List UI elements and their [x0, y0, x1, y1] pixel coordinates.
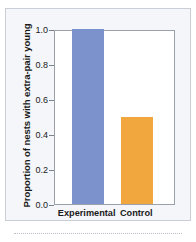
y-axis-tick: 0.8 — [6, 59, 54, 71]
y-axis-tick-label: 0.8 — [35, 59, 48, 71]
y-axis-tick: 1.0 — [6, 24, 54, 36]
figure-panel: Proportion of nests with extra-pair youn… — [5, 8, 191, 221]
y-axis-tick-label: 0.2 — [35, 164, 48, 176]
y-axis-tick: 0.4 — [6, 129, 54, 141]
y-axis-ticks: 0.00.20.40.60.81.0 — [6, 30, 54, 205]
bar-control — [121, 117, 153, 205]
y-axis-tick-label: 0.4 — [35, 129, 48, 141]
plot-area — [54, 30, 175, 205]
bar-experimental — [72, 29, 104, 204]
y-axis-tick-label: 0.6 — [35, 94, 48, 106]
y-axis-tick-label: 1.0 — [35, 24, 48, 36]
x-axis-label-control: Control — [91, 208, 181, 218]
y-axis-tick: 0.2 — [6, 164, 54, 176]
y-axis-tick: 0.6 — [6, 94, 54, 106]
bottom-divider — [14, 233, 182, 235]
